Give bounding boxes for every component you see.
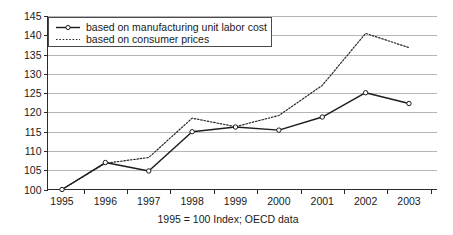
line-chart-figure: 100105110115120125130135140145 199519961… [0, 0, 453, 235]
chart-canvas: 100105110115120125130135140145 199519961… [0, 0, 453, 235]
data-point-marker [147, 169, 151, 173]
x-axis-tick-label: 2001 [311, 195, 335, 207]
data-point-marker [363, 91, 367, 95]
y-axis-tick-label: 100 [24, 184, 42, 196]
legend-label-manufacturing-unit-labor-cost: based on manufacturing unit labor cost [86, 21, 267, 33]
x-axis-tick-label: 1995 [50, 195, 74, 207]
x-axis-tick-marks [85, 190, 432, 194]
y-axis-tick-label: 110 [25, 145, 42, 157]
x-axis-tick-label: 1996 [94, 195, 118, 207]
y-axis-tick-label: 135 [24, 49, 42, 61]
data-point-marker [103, 160, 107, 164]
series-markers-manufacturing-unit-labor-cost [60, 91, 411, 192]
x-axis-tick-label: 2003 [397, 195, 421, 207]
legend-entry-manufacturing-unit-labor-cost[interactable]: based on manufacturing unit labor cost [56, 21, 267, 33]
series-line-consumer-prices [62, 33, 409, 189]
data-point-marker [277, 128, 281, 132]
data-point-marker [190, 129, 194, 133]
x-axis-tick-labels: 199519961997199819992000200120022003 [50, 195, 421, 207]
x-axis-tick-label: 1998 [180, 195, 204, 207]
y-axis-tick-label: 125 [24, 87, 42, 99]
x-axis-tick-label: 1997 [137, 195, 161, 207]
y-axis-tick-label: 140 [24, 29, 42, 41]
y-axis-tick-labels: 100105110115120125130135140145 [24, 10, 42, 196]
series-line-manufacturing-unit-labor-cost [62, 93, 409, 190]
y-axis-tick-label: 130 [24, 68, 42, 80]
x-axis-tick-label: 1999 [224, 195, 248, 207]
chart-legend[interactable]: based on manufacturing unit labor cost b… [49, 18, 272, 47]
chart-caption: 1995 = 100 Index; OECD data [158, 213, 299, 225]
data-point-marker [233, 125, 237, 129]
y-axis-tick-label: 120 [24, 106, 42, 118]
legend-label-consumer-prices: based on consumer prices [86, 33, 209, 45]
x-axis-tick-label: 2000 [267, 195, 291, 207]
data-point-marker [60, 187, 64, 191]
y-axis-tick-label: 105 [24, 164, 42, 176]
data-point-marker [320, 115, 324, 119]
x-axis-tick-label: 2002 [354, 195, 378, 207]
data-point-marker [407, 101, 411, 105]
y-axis-tick-label: 115 [25, 126, 42, 138]
y-axis-tick-label: 145 [24, 10, 42, 22]
legend-swatch-open-circle-icon [66, 25, 70, 29]
